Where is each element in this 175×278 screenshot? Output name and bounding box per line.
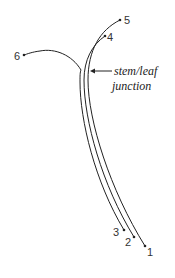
point-5-label: 5 xyxy=(124,14,130,26)
point-6-label: 6 xyxy=(14,50,20,62)
point-1-dot xyxy=(144,245,147,248)
point-3-label: 3 xyxy=(113,226,119,238)
annotation-line-2: junction xyxy=(110,79,151,93)
point-3-dot xyxy=(123,229,126,232)
point-5-dot xyxy=(119,19,122,22)
stem-leaf-diagram: 1 2 3 4 5 6 stem/leaf junction xyxy=(0,0,175,278)
annotation-line-1: stem/leaf xyxy=(114,64,159,78)
point-4-dot xyxy=(104,35,107,38)
point-1-label: 1 xyxy=(147,246,153,258)
junction-arrowhead-icon xyxy=(90,69,95,74)
point-6-dot xyxy=(23,54,26,57)
point-2-label: 2 xyxy=(125,236,131,248)
point-2-dot xyxy=(133,236,136,239)
point-4-label: 4 xyxy=(107,31,113,43)
curve-3-to-6 xyxy=(24,50,124,230)
curve-1-to-5 xyxy=(88,20,145,246)
